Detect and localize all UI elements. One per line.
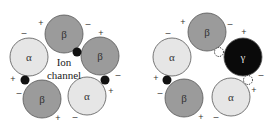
minus-charge: – bbox=[72, 112, 77, 122]
subunit-label: α bbox=[26, 51, 32, 63]
plus-charge: + bbox=[55, 113, 60, 123]
plus-charge: + bbox=[98, 28, 103, 38]
minus-charge: – bbox=[16, 88, 21, 98]
subunit-gamma: γ bbox=[224, 38, 262, 76]
subunit-label: γ bbox=[240, 51, 246, 63]
plus-charge: + bbox=[251, 85, 256, 95]
subunit-label: β bbox=[97, 50, 103, 62]
subunit-label: β bbox=[61, 28, 67, 40]
binding-site-occupied bbox=[21, 76, 30, 85]
minus-charge: – bbox=[157, 88, 162, 98]
minus-charge: – bbox=[21, 28, 26, 38]
binding-site-empty bbox=[215, 48, 224, 57]
subunit-alpha: α bbox=[10, 38, 48, 76]
plus-charge: + bbox=[241, 27, 246, 37]
subunit-alpha: α bbox=[212, 78, 250, 116]
minus-charge: – bbox=[115, 70, 120, 80]
subunit-label: β bbox=[204, 26, 210, 38]
subunit-label: β bbox=[181, 92, 187, 104]
minus-charge: – bbox=[227, 19, 232, 29]
binding-site-occupied bbox=[101, 76, 110, 85]
plus-charge: + bbox=[180, 17, 185, 27]
receptor-diagrams: ββαβα+–+––++–+– Ion channel βγαβα+–+––++… bbox=[0, 0, 270, 131]
subunit-beta: β bbox=[81, 37, 119, 75]
plus-charge: + bbox=[108, 86, 113, 96]
binding-site-occupied bbox=[163, 76, 172, 85]
minus-charge: – bbox=[258, 70, 263, 80]
ion-channel-label-line1: Ion bbox=[57, 56, 72, 68]
subunit-label: α bbox=[169, 51, 175, 63]
binding-site-occupied bbox=[73, 48, 82, 57]
subunit-beta: β bbox=[188, 13, 226, 51]
subunit-beta: β bbox=[165, 79, 203, 117]
subunit-label: α bbox=[84, 90, 90, 102]
plus-charge: + bbox=[153, 73, 158, 83]
minus-charge: – bbox=[85, 19, 90, 29]
subunit-alpha: α bbox=[68, 77, 106, 115]
minus-charge: – bbox=[165, 28, 170, 38]
plus-charge: + bbox=[10, 74, 15, 84]
plus-charge: + bbox=[38, 18, 43, 28]
subunit-alpha: α bbox=[153, 38, 191, 76]
ion-channel-label-line2: channel bbox=[47, 69, 81, 81]
plus-charge: + bbox=[198, 112, 203, 122]
subunit-beta: β bbox=[45, 15, 83, 53]
binding-site-empty bbox=[244, 76, 253, 85]
subunit-label: α bbox=[228, 91, 234, 103]
subunit-label: β bbox=[39, 93, 45, 105]
right-diagram-pentamer: βγαβα+–+––++–+– bbox=[153, 13, 264, 122]
minus-charge: – bbox=[213, 112, 218, 122]
